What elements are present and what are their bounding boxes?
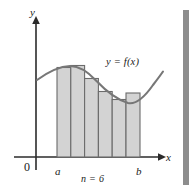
riemann-sum-figure: y x 0 a b n = 6 y = f(x) (0, 0, 192, 196)
curve-equation-label: y = f(x) (106, 57, 139, 68)
x-axis-arrow-icon (158, 153, 166, 161)
riemann-rectangles (57, 66, 140, 158)
y-axis-label: y (30, 7, 35, 18)
interval-end-label-b: b (136, 166, 142, 177)
x-axis-label: x (166, 152, 171, 163)
riemann-rectangle (112, 100, 126, 158)
interval-start-label-a: a (55, 166, 61, 177)
riemann-rectangle (71, 66, 85, 158)
subinterval-count-label: n = 6 (81, 174, 104, 184)
origin-label: 0 (24, 161, 30, 173)
riemann-rectangle (85, 79, 99, 158)
page-edge-strip (183, 10, 189, 185)
riemann-rectangle (98, 92, 112, 158)
riemann-rectangle (57, 68, 71, 158)
